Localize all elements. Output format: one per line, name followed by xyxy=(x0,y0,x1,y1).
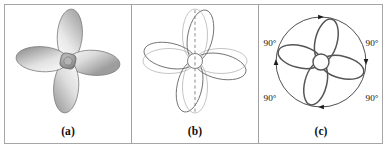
angle-label-bottom-right: 90° xyxy=(366,93,379,103)
angle-label-bottom-left: 90° xyxy=(264,93,277,103)
symmetry-hub xyxy=(313,54,329,70)
angle-label-top-left: 90° xyxy=(264,38,277,48)
angle-label-top-right: 90° xyxy=(366,38,379,48)
rotation-arc-top-left xyxy=(276,17,321,62)
rotation-arc-bottom-right xyxy=(321,62,366,107)
symmetry-figure: (a) xyxy=(0,0,387,151)
panel-c: 90° 90° 90° 90° (c) xyxy=(259,4,383,144)
rotation-arc-bottom-left xyxy=(276,62,321,107)
panel-c-artwork: 90° 90° 90° 90° xyxy=(259,4,383,120)
rotation-arc-top-right xyxy=(321,17,366,62)
panel-a: (a) xyxy=(5,4,131,144)
panel-a-caption: (a) xyxy=(5,125,131,137)
panel-a-artwork xyxy=(5,4,131,120)
panel-c-caption: (c) xyxy=(259,125,383,137)
panel-b-caption: (b) xyxy=(132,125,258,137)
panel-b-artwork xyxy=(132,4,258,120)
panel-b: (b) xyxy=(132,4,258,144)
outline-hub xyxy=(188,54,203,69)
